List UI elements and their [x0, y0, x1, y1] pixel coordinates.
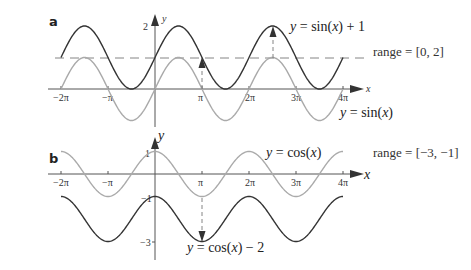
tick-b-3pi: 3π: [291, 177, 301, 188]
tick-b-2pi: 2π: [245, 177, 255, 188]
panel-a: a x y 2 −2π −π π 2π 3π 4π: [48, 13, 444, 127]
y-axis-label-b: y: [156, 128, 165, 143]
tick-b-pi: π: [198, 177, 203, 188]
tick-a-mpi: −π: [102, 92, 113, 103]
figure: a x y 2 −2π −π π 2π 3π 4π: [0, 0, 471, 270]
equation-cos-minus-2: y = cos(x) − 2: [185, 240, 264, 256]
equation-cos: y = cos(x): [264, 145, 322, 161]
y-axis-label-a: y: [161, 13, 167, 24]
x-axis-label-b: x: [363, 167, 371, 182]
equation-sin-plus-1: y = sin(x) + 1: [288, 19, 365, 35]
x-axis-arrow-icon: [350, 170, 364, 178]
y-tick-2: 2: [143, 21, 148, 32]
panel-a-label: a: [49, 14, 58, 29]
tick-a-pi: π: [198, 92, 203, 103]
panel-b-label: b: [49, 151, 58, 166]
tick-b-4pi: 4π: [338, 177, 348, 188]
range-label-b: range = [−3, −1]: [373, 145, 459, 160]
tick-b-mpi: −π: [102, 177, 113, 188]
tick-a-m2pi: −2π: [53, 92, 69, 103]
panel-b: b x y 1 −1 −3 −2π −π π 2π 3π 4π: [48, 128, 459, 260]
y-axis-arrow-icon: [151, 14, 159, 26]
tick-b-m2pi: −2π: [53, 177, 69, 188]
arrow-up-icon: [270, 26, 277, 37]
y-tick-m3: −3: [140, 237, 151, 248]
x-axis-label-a: x: [365, 83, 371, 94]
x-axis-arrow-icon: [350, 85, 364, 93]
equation-sin: y = sin(x): [338, 105, 393, 121]
range-label-a: range = [0, 2]: [373, 44, 444, 59]
